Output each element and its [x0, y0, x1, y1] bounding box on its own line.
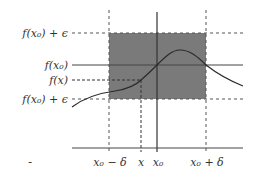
- label-lower-epsilon: f(x₀) + ϵ: [21, 93, 68, 106]
- stray-mark: -: [28, 156, 32, 169]
- label-x0-minus-delta: x₀ − δ: [93, 156, 127, 169]
- label-upper-epsilon: f(x₀) + ϵ: [21, 27, 68, 40]
- label-fx0: f(x₀): [44, 59, 68, 72]
- label-x0-plus-delta: x₀ + δ: [190, 156, 224, 169]
- label-fx: f(x): [48, 74, 68, 87]
- label-x0: x₀: [153, 156, 164, 169]
- epsilon-delta-diagram: f(x₀) + ϵ f(x₀) f(x) f(x₀) + ϵ x₀ − δ x …: [0, 0, 254, 177]
- label-x: x: [138, 156, 145, 169]
